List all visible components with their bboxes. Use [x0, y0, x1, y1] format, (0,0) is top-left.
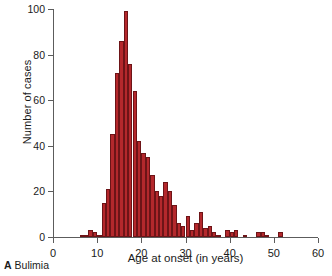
histogram-bar — [265, 235, 269, 237]
bar-series — [53, 9, 318, 238]
histogram-bar — [216, 235, 220, 237]
y-tick-label: 0 — [11, 232, 45, 242]
y-tick-label: 60 — [11, 95, 45, 105]
x-tick — [186, 238, 187, 243]
histogram-bar — [278, 232, 282, 237]
y-tick — [48, 191, 53, 192]
x-tick — [318, 238, 319, 243]
y-tick — [48, 9, 53, 10]
x-axis-title: Age at onset (in years) — [53, 252, 318, 264]
y-tick-label: 80 — [11, 50, 45, 60]
x-tick — [274, 238, 275, 243]
histogram-bar — [243, 235, 247, 237]
x-tick — [53, 238, 54, 243]
y-tick-label: 100 — [11, 4, 45, 14]
y-tick-label: 40 — [11, 141, 45, 151]
y-tick — [48, 55, 53, 56]
y-tick — [48, 146, 53, 147]
plot-area: 020406080100 0102030405060 — [53, 9, 318, 238]
figure-caption: ABulimia — [4, 259, 49, 271]
y-tick-label: 20 — [11, 186, 45, 196]
histogram-bar — [234, 230, 238, 237]
y-tick — [48, 100, 53, 101]
x-tick — [97, 238, 98, 243]
x-tick — [141, 238, 142, 243]
panel-letter: A — [4, 259, 12, 271]
x-tick — [230, 238, 231, 243]
histogram-figure: Number of cases 020406080100 01020304050… — [0, 0, 332, 276]
panel-title: Bulimia — [15, 259, 49, 271]
